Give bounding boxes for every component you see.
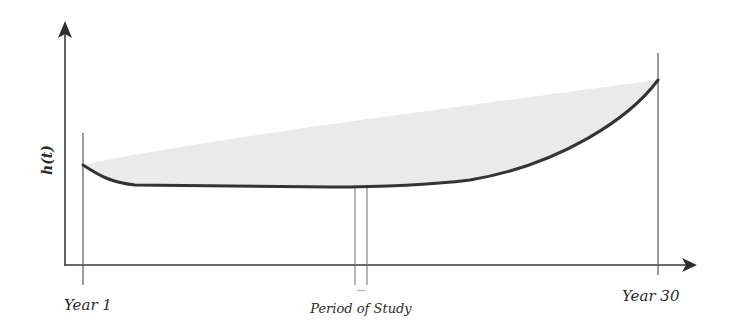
shaded-area: [83, 80, 658, 187]
year-1-label: Year 1: [64, 296, 112, 314]
study-bracket: [357, 290, 365, 291]
period-of-study-label: Period of Study: [309, 301, 412, 316]
year-30-label: Year 30: [622, 287, 680, 305]
hazard-diagram: h(t) Year 1 Year 30 Period of Study: [0, 0, 730, 333]
y-axis-label: h(t): [39, 145, 55, 175]
